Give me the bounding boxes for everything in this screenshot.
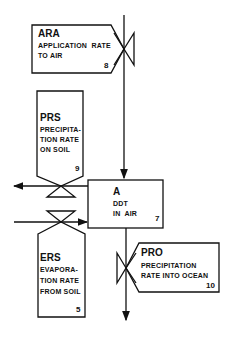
pro-desc-1: PRECIPITATION <box>141 262 197 270</box>
ers-valve-icon <box>47 211 75 222</box>
ara-desc-2: TO AIR <box>38 52 63 60</box>
flow-diagram <box>0 0 231 341</box>
prs-desc-3: ON SOIL <box>40 146 70 154</box>
pro-desc-2: RATE INTO OCEAN <box>141 272 208 280</box>
ara-number: 8 <box>104 61 108 70</box>
pro-code: PRO <box>141 247 163 259</box>
ers-desc-2: TION RATE <box>40 277 79 285</box>
prs-desc-2: TION RATE <box>40 136 79 144</box>
a-code: A <box>113 186 120 198</box>
pro-number: 10 <box>206 281 215 290</box>
a-desc-2: IN AIR <box>113 210 137 218</box>
prs-code: PRS <box>40 112 61 124</box>
a-number: 7 <box>155 214 159 223</box>
ers-number: 5 <box>76 305 80 314</box>
ara-desc-1: APPLICATION RATE <box>38 42 111 50</box>
a-desc-1: DDT <box>113 200 128 208</box>
ara-code: ARA <box>38 28 60 40</box>
ers-code: ERS <box>40 252 61 264</box>
ers-desc-3: FROM SOIL <box>40 288 81 296</box>
prs-valve-icon <box>47 186 75 197</box>
prs-number: 9 <box>75 164 79 173</box>
prs-desc-1: PRECIPITA- <box>40 126 81 134</box>
ers-desc-1: EVAPORA- <box>40 266 78 274</box>
